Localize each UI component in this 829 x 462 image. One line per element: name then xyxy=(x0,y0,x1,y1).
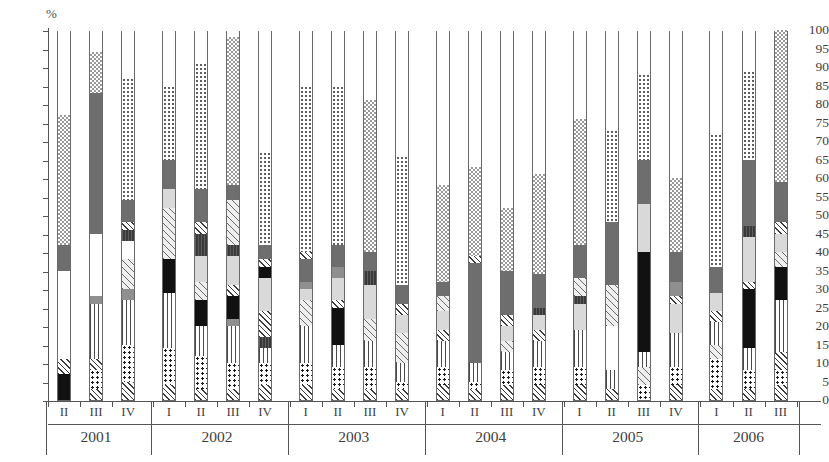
bar-segment xyxy=(364,367,376,389)
bar-segment xyxy=(775,234,787,253)
bar-segment xyxy=(437,282,449,297)
stacked-bar xyxy=(331,31,345,401)
bar-segment xyxy=(501,385,513,400)
bar-segment xyxy=(469,382,481,389)
bar-segment xyxy=(501,370,513,385)
bar-segment xyxy=(122,30,134,78)
bar-segment xyxy=(396,30,408,156)
bar-segment xyxy=(437,330,449,341)
bar-segment xyxy=(743,30,755,71)
bar-segment xyxy=(163,293,175,349)
quarter-label: I xyxy=(289,404,323,420)
bar-segment xyxy=(90,304,102,360)
bar-segment xyxy=(638,252,650,352)
bar-segment xyxy=(332,245,344,267)
stacked-bar xyxy=(121,31,135,401)
y-axis-tick xyxy=(43,383,48,384)
year-label: 2002 xyxy=(151,428,283,446)
bar-segment xyxy=(227,296,239,318)
quarter-label: IV xyxy=(659,404,693,420)
x-axis-tick xyxy=(112,401,113,407)
bar-segment xyxy=(710,293,722,312)
bar-segment xyxy=(574,30,586,119)
bar-segment xyxy=(195,256,207,282)
bar-segment xyxy=(469,389,481,400)
x-axis-tick xyxy=(80,401,81,407)
stacked-bar xyxy=(468,31,482,401)
bar-segment xyxy=(606,222,618,285)
bar-segment xyxy=(90,389,102,400)
bar-segment xyxy=(775,252,787,267)
bar-segment xyxy=(227,245,239,256)
bar-segment xyxy=(638,74,650,159)
bar-segment xyxy=(533,274,545,307)
chart-root: % 05101520253035404550556065707580859095… xyxy=(0,0,829,462)
bar-segment xyxy=(332,86,344,245)
x-axis-tick xyxy=(660,401,661,407)
stacked-bar xyxy=(742,31,756,401)
bar-segment xyxy=(710,311,722,322)
quarter-label: II xyxy=(732,404,766,420)
bar-segment xyxy=(501,341,513,352)
bar-segment xyxy=(227,200,239,244)
stacked-bar xyxy=(363,31,377,401)
stacked-bar xyxy=(532,31,546,401)
x-axis-tick xyxy=(153,401,154,407)
bar-segment xyxy=(300,363,312,385)
bar-segment xyxy=(574,278,586,297)
bar-segment xyxy=(670,385,682,400)
year-group-separator xyxy=(46,401,47,455)
y-axis-tick xyxy=(43,179,48,180)
bar-segment xyxy=(364,319,376,341)
bar-segment xyxy=(469,167,481,256)
x-axis-tick xyxy=(322,401,323,407)
x-axis-tick xyxy=(459,401,460,407)
bar-segment xyxy=(332,300,344,307)
year-group-separator xyxy=(288,401,289,455)
year-label: 2004 xyxy=(425,428,557,446)
quarter-label: IV xyxy=(111,404,145,420)
bar-segment xyxy=(300,252,312,259)
bar-segment xyxy=(574,304,586,330)
bar-segment xyxy=(163,160,175,190)
bar-segment xyxy=(533,174,545,274)
y-axis-tick xyxy=(43,216,48,217)
quarter-label: IV xyxy=(522,404,556,420)
stacked-bar xyxy=(89,31,103,401)
bar-segment xyxy=(227,285,239,296)
quarter-label: III xyxy=(216,404,250,420)
y-axis-unit-label: % xyxy=(46,6,57,22)
bar-segment xyxy=(396,333,408,363)
bar-segment xyxy=(533,330,545,341)
bar-segment xyxy=(775,300,787,352)
y-axis-tick xyxy=(43,364,48,365)
bar-segment xyxy=(501,208,513,271)
bar-segment xyxy=(710,267,722,293)
bar-segment xyxy=(396,363,408,382)
x-axis-tick xyxy=(386,401,387,407)
stacked-bar xyxy=(258,31,272,401)
bar-segment xyxy=(775,370,787,385)
bar-segment xyxy=(743,389,755,400)
x-axis-tick xyxy=(523,401,524,407)
bar-segment xyxy=(469,256,481,263)
bar-segment xyxy=(163,30,175,86)
quarter-label: II xyxy=(47,404,81,420)
stacked-bar xyxy=(774,31,788,401)
bar-segment xyxy=(227,37,239,185)
bar-segment xyxy=(710,30,722,134)
bar-segment xyxy=(122,259,134,289)
bar-segment xyxy=(501,352,513,371)
bar-segment xyxy=(638,385,650,400)
x-axis-tick xyxy=(249,401,250,407)
bar-segment xyxy=(227,30,239,37)
x-axis-tick xyxy=(628,401,629,407)
stacked-bar xyxy=(436,31,450,401)
bar-segment xyxy=(775,182,787,223)
stacked-bar xyxy=(709,31,723,401)
bar-segment xyxy=(710,359,722,389)
bar-segment xyxy=(332,345,344,367)
bar-segment xyxy=(469,363,481,382)
stacked-bar xyxy=(573,31,587,401)
bar-segment xyxy=(300,259,312,281)
